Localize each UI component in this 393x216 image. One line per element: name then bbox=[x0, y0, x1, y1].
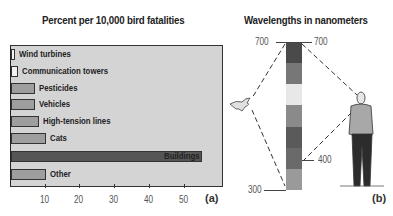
left-700-label: 700 bbox=[255, 36, 269, 47]
right-700-label: 700 bbox=[314, 36, 328, 47]
spectrum-band bbox=[286, 84, 302, 105]
right-400-label: 400 bbox=[318, 154, 332, 165]
spectrum-band bbox=[286, 127, 302, 148]
spectrum-column bbox=[286, 42, 302, 190]
left-300-label: 300 bbox=[248, 184, 262, 195]
bird-icon bbox=[230, 98, 250, 111]
panel-b-label: (b) bbox=[372, 192, 386, 204]
wavelength-diagram bbox=[0, 0, 393, 216]
line-300 bbox=[264, 190, 286, 191]
spectrum-band bbox=[286, 169, 302, 190]
spectrum-band bbox=[286, 42, 302, 63]
person-icon bbox=[340, 92, 384, 186]
top-line-700 bbox=[276, 42, 312, 43]
spectrum-band bbox=[286, 148, 302, 169]
spectrum-band bbox=[286, 105, 302, 126]
line-400 bbox=[302, 160, 314, 161]
spectrum-band bbox=[286, 63, 302, 84]
